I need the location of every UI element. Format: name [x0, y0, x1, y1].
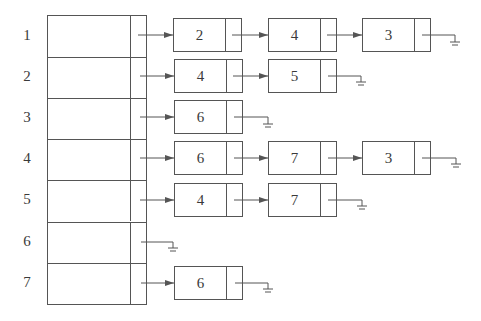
head-row-7: [48, 263, 146, 304]
node-value: 3: [363, 142, 414, 174]
head-pointer-cell: [130, 16, 131, 57]
head-row-2: [48, 57, 146, 98]
ground-icon: [263, 124, 273, 127]
node-value: 4: [175, 184, 226, 216]
list-node: 4: [174, 59, 243, 93]
node-next-pointer: [226, 142, 243, 174]
ground-icon: [168, 248, 178, 251]
node-value: 6: [175, 101, 226, 133]
node-next-pointer: [225, 19, 242, 51]
head-row-5: [48, 180, 146, 221]
list-node: 3: [362, 141, 431, 175]
node-next-pointer: [320, 60, 337, 92]
node-value: 7: [269, 142, 320, 174]
head-row-6: [48, 222, 146, 263]
list-node: 5: [268, 59, 337, 93]
head-row-1: [48, 16, 146, 57]
head-pointer-cell: [130, 181, 131, 221]
head-pointer-cell: [130, 223, 131, 263]
list-node: 6: [174, 266, 243, 300]
vertex-label-5: 5: [17, 191, 37, 207]
node-value: 7: [269, 184, 320, 216]
list-node: 7: [268, 141, 337, 175]
node-value: 2: [174, 19, 225, 51]
node-value: 4: [175, 60, 226, 92]
node-value: 3: [363, 19, 414, 51]
node-next-pointer: [226, 184, 243, 216]
node-next-pointer: [320, 184, 337, 216]
ground-icon: [450, 42, 460, 45]
vertex-label-1: 1: [17, 27, 37, 43]
ground-icon: [451, 164, 461, 167]
head-pointer-cell: [130, 140, 131, 180]
head-pointer-cell: [130, 58, 131, 98]
node-next-pointer: [226, 101, 243, 133]
node-value: 5: [269, 60, 320, 92]
vertex-label-6: 6: [17, 233, 37, 249]
node-next-pointer: [414, 19, 431, 51]
node-next-pointer: [320, 142, 337, 174]
list-node: 7: [268, 183, 337, 217]
head-pointer-cell: [130, 264, 131, 304]
vertex-head-table: [47, 15, 147, 305]
list-node: 4: [174, 183, 243, 217]
head-pointer-cell: [130, 99, 131, 139]
node-next-pointer: [226, 267, 243, 299]
list-node: 6: [174, 100, 243, 134]
vertex-label-2: 2: [17, 68, 37, 84]
list-node: 6: [174, 141, 243, 175]
ground-icon: [356, 82, 366, 85]
vertex-label-4: 4: [17, 150, 37, 166]
node-value: 6: [175, 142, 226, 174]
vertex-label-7: 7: [17, 274, 37, 290]
list-node: 3: [362, 18, 431, 52]
node-next-pointer: [320, 19, 337, 51]
head-row-4: [48, 139, 146, 180]
node-next-pointer: [226, 60, 243, 92]
head-row-3: [48, 98, 146, 139]
vertex-label-3: 3: [17, 109, 37, 125]
ground-icon: [357, 206, 367, 209]
list-node: 4: [268, 18, 337, 52]
node-value: 4: [269, 19, 320, 51]
list-node: 2: [173, 18, 242, 52]
ground-icon: [263, 289, 273, 292]
node-value: 6: [175, 267, 226, 299]
node-next-pointer: [414, 142, 431, 174]
